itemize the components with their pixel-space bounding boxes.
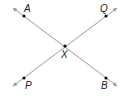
intersecting-lines-diagram: A Q X P B (0, 0, 125, 96)
point-a (22, 14, 25, 17)
label-a: A (23, 3, 31, 14)
label-x: X (60, 49, 68, 60)
point-x (63, 44, 66, 47)
label-b: B (101, 80, 108, 91)
label-p: P (25, 80, 32, 91)
label-q: Q (100, 3, 108, 14)
point-q (104, 14, 107, 17)
